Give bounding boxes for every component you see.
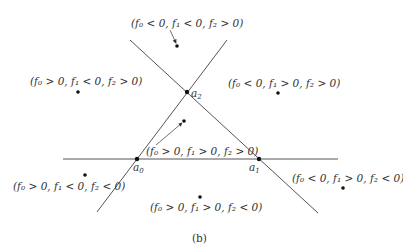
- vertex-a1: [257, 157, 261, 161]
- region-dot-upper-right: [276, 91, 280, 95]
- vertex-label-a2: a2: [191, 87, 202, 101]
- region-dot-lower-left: [83, 173, 87, 177]
- region-dot-upper-left: [76, 90, 80, 94]
- vertex-label-a1: a1: [249, 161, 260, 175]
- arrow-top-label: [170, 30, 176, 43]
- region-dot-bottom: [198, 195, 202, 199]
- region-label-upper-left: (f₀ > 0, f₁ < 0, f₂ > 0): [30, 75, 142, 87]
- region-dot-lower-right: [341, 186, 345, 190]
- line-f0-a1-a2: [130, 40, 318, 213]
- arrow-center-label: [156, 123, 182, 145]
- region-label-lower-left: (f₀ > 0, f₁ < 0, f₂ < 0): [13, 180, 125, 192]
- region-label-lower-right: (f₀ < 0, f₁ > 0, f₂ < 0): [292, 172, 403, 184]
- figure-caption: (b): [192, 232, 207, 244]
- sign-regions-diagram: a0 a1 a2 (f₀ < 0, f₁ < 0, f₂ > 0) (f₀ > …: [0, 0, 403, 249]
- vertex-a2: [185, 90, 189, 94]
- region-label-top: (f₀ < 0, f₁ < 0, f₂ > 0): [131, 17, 243, 29]
- region-label-center: (f₀ > 0, f₁ > 0, f₂ > 0): [146, 145, 258, 157]
- vertex-label-a0: a0: [133, 161, 144, 175]
- region-label-upper-right: (f₀ < 0, f₁ > 0, f₂ > 0): [228, 77, 340, 89]
- region-label-bottom: (f₀ > 0, f₁ > 0, f₂ < 0): [150, 201, 262, 213]
- region-dot-center: [182, 119, 186, 123]
- region-dot-top: [175, 44, 179, 48]
